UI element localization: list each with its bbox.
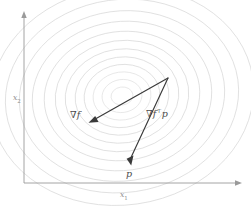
x2-axis-label: x2 bbox=[13, 94, 21, 104]
gradient-label-f: f bbox=[77, 109, 81, 120]
gradient-vector-arrowhead bbox=[89, 116, 99, 123]
contour-level-2 bbox=[100, 77, 144, 115]
nabla-icon: ∇ bbox=[70, 109, 77, 120]
direction-label-p: p bbox=[126, 168, 132, 179]
x1-axis-label: x1 bbox=[120, 191, 128, 201]
contour-level-6 bbox=[59, 42, 185, 151]
vector-p bbox=[127, 78, 168, 165]
direction-vector-label: p bbox=[126, 169, 132, 179]
x2-axis-label-sub: 2 bbox=[17, 98, 21, 104]
contour-level-8 bbox=[36, 21, 208, 170]
nabla-icon: ∇ bbox=[146, 108, 153, 119]
directional-derivative-label: ∇f⊤p bbox=[146, 108, 168, 119]
contour-figure: x2 x1 ∇f ∇f⊤p p bbox=[0, 0, 251, 207]
contour-level-7 bbox=[48, 32, 196, 161]
x1-axis-label-sub: 1 bbox=[124, 195, 128, 201]
dd-label-p: p bbox=[162, 108, 168, 119]
contour-level-9 bbox=[23, 10, 222, 183]
x1-axis-arrowhead bbox=[235, 180, 242, 185]
x2-axis-arrowhead bbox=[21, 11, 26, 18]
p-vector-shaft bbox=[130, 78, 168, 161]
gradient-vector-label: ∇f bbox=[70, 110, 80, 120]
contour-level-3 bbox=[90, 68, 154, 124]
